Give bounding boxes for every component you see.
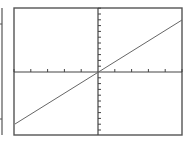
graph-canvas <box>0 0 193 141</box>
adjacent-panel-edge <box>0 8 2 135</box>
graph-screen <box>0 0 193 141</box>
